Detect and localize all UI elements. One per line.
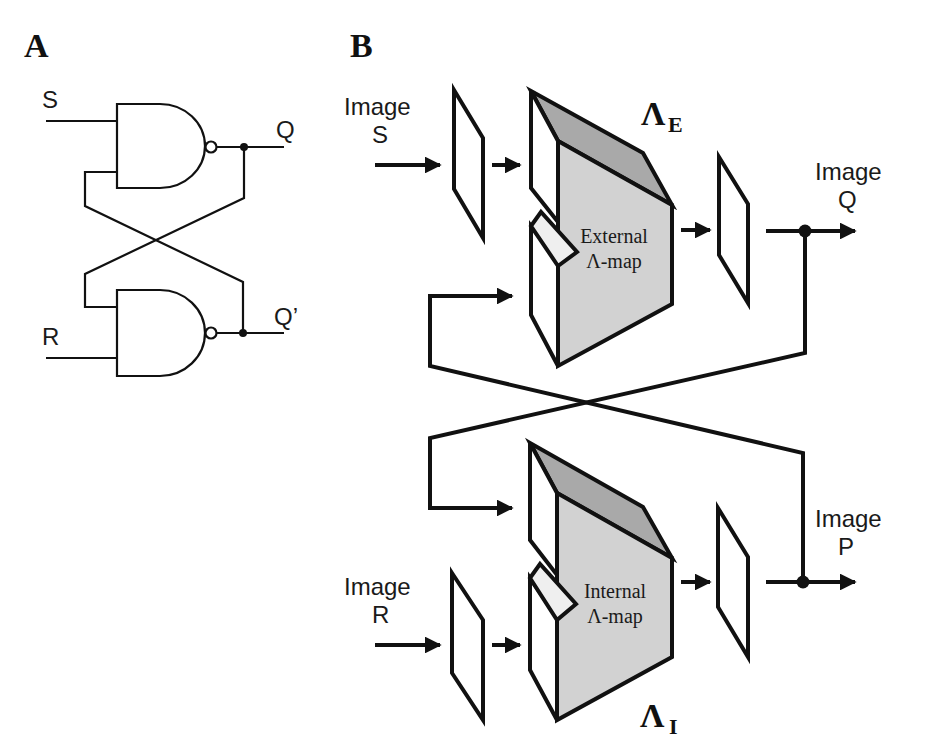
internal-lambda-map-block: Internal Λ-map <box>530 443 672 720</box>
lambda-e-symbol: Λ <box>641 95 666 132</box>
image-p-label-1: Image <box>815 505 882 532</box>
output-frame-p <box>718 508 748 657</box>
figure: A S R Q Q’ B Image S <box>0 0 925 756</box>
nand-gate-top <box>117 104 205 188</box>
panel-b: B Image S External Λ-map Λ E Image Q Ima… <box>344 27 882 739</box>
internal-map-label-1: Internal <box>584 580 647 602</box>
junction-dot-p <box>797 576 810 589</box>
image-q-label-2: Q <box>838 186 857 213</box>
input-s-label: S <box>42 86 58 113</box>
input-r-label: R <box>42 323 59 350</box>
panel-b-label: B <box>350 27 373 64</box>
image-r-label-2: R <box>372 601 389 628</box>
image-s-label-2: S <box>372 121 388 148</box>
image-p-label-2: P <box>838 533 854 560</box>
lambda-e-subscript: E <box>668 112 683 137</box>
external-map-label-1: External <box>580 225 648 247</box>
output-frame-q <box>719 157 748 303</box>
internal-map-label-2: Λ-map <box>587 605 643 628</box>
external-map-label-2: Λ-map <box>586 250 642 273</box>
output-qbar-label: Q’ <box>274 303 298 330</box>
panel-a-label: A <box>24 27 49 64</box>
output-q-label: Q <box>276 116 295 143</box>
input-frame-s <box>454 90 483 238</box>
image-r-label-1: Image <box>344 573 411 600</box>
image-s-label-1: Image <box>344 93 411 120</box>
input-frame-r <box>452 573 483 720</box>
inverter-bubble-top <box>206 142 217 153</box>
lambda-i-symbol: Λ <box>640 697 665 734</box>
inverter-bubble-bottom <box>206 328 217 339</box>
lambda-i-subscript: I <box>669 714 678 739</box>
external-lambda-map-block: External Λ-map <box>531 91 672 366</box>
nand-gate-bottom <box>117 290 205 376</box>
image-q-label-1: Image <box>815 158 882 185</box>
panel-a: A S R Q Q’ <box>24 27 298 376</box>
